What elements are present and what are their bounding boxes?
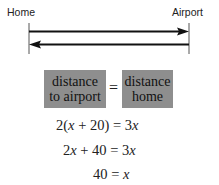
arrow-to-airport-icon xyxy=(29,28,189,36)
arrow-to-home-icon xyxy=(29,41,189,49)
equals-sign: = xyxy=(109,79,118,97)
equation-2: 2x + 40 = 3x xyxy=(63,142,136,159)
box-line: distance xyxy=(122,74,173,89)
distance-to-airport-box: distance to airport xyxy=(44,70,106,108)
equation-1: 2(x + 20) = 3x xyxy=(56,117,138,134)
route-diagram xyxy=(0,0,219,60)
box-line: home xyxy=(122,89,173,104)
distance-home-box: distance home xyxy=(122,70,173,108)
box-line: distance xyxy=(44,74,106,89)
box-line: to airport xyxy=(44,89,106,104)
equation-3: 40 = x xyxy=(93,166,129,183)
